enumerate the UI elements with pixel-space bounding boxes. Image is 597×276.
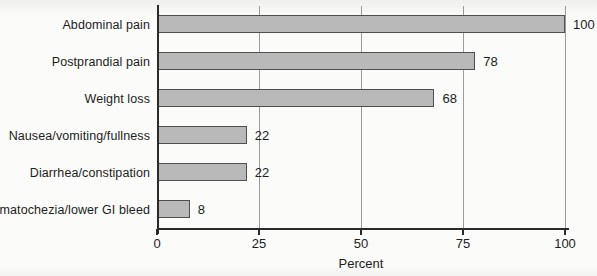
value-label: 68	[442, 89, 456, 107]
x-axis-tick-label: 75	[456, 236, 470, 251]
value-label: 78	[483, 52, 497, 70]
category-label: Hematochezia/lower GI bleed	[0, 191, 150, 228]
category-label: Weight loss	[0, 80, 150, 117]
bar-row: 22	[157, 117, 565, 154]
x-axis-line	[157, 228, 569, 230]
value-label: 100	[573, 15, 595, 33]
category-label: Nausea/vomiting/fullness	[0, 117, 150, 154]
x-axis-tick	[360, 229, 362, 235]
bar-row: 22	[157, 154, 565, 191]
y-axis-line	[157, 5, 159, 234]
x-axis-title: Percent	[157, 256, 565, 271]
x-axis-tick-label: 25	[252, 236, 266, 251]
category-label: Postprandial pain	[0, 43, 150, 80]
bar	[157, 163, 247, 181]
value-label: 8	[198, 200, 205, 218]
category-label: Abdominal pain	[0, 6, 150, 43]
bar	[157, 200, 190, 218]
bar-row: 100	[157, 6, 565, 43]
bar	[157, 89, 434, 107]
bar-row: 68	[157, 80, 565, 117]
x-axis-tick	[564, 229, 566, 235]
plot-area: 100786822228	[157, 6, 565, 228]
x-axis-tick	[462, 229, 464, 235]
bar-chart-figure: Abdominal painPostprandial painWeight lo…	[0, 0, 597, 276]
x-axis-tick-label: 0	[153, 236, 160, 251]
bar	[157, 126, 247, 144]
value-label: 22	[255, 163, 269, 181]
x-axis-tick-label: 100	[554, 236, 576, 251]
value-label: 22	[255, 126, 269, 144]
bar	[157, 15, 565, 33]
bar-row: 78	[157, 43, 565, 80]
category-label: Diarrhea/constipation	[0, 154, 150, 191]
bar	[157, 52, 475, 70]
bar-row: 8	[157, 191, 565, 228]
x-axis-tick-label: 50	[354, 236, 368, 251]
category-labels: Abdominal painPostprandial painWeight lo…	[0, 6, 150, 228]
x-axis-tick	[156, 229, 158, 235]
x-axis-tick	[258, 229, 260, 235]
